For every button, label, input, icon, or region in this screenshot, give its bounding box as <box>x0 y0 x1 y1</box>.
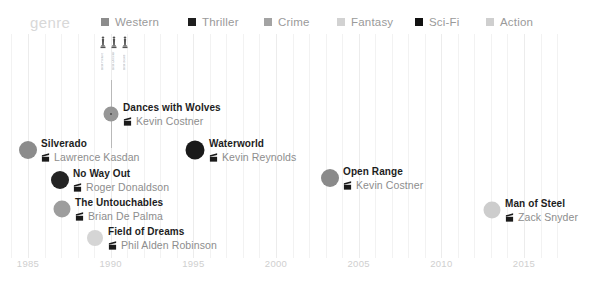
data-point-marker[interactable] <box>484 202 501 219</box>
data-point-marker[interactable] <box>321 169 339 187</box>
data-point-label: WaterworldKevin Reynolds <box>209 138 296 163</box>
data-point-label: The UntouchablesBrian De Palma <box>75 197 163 222</box>
data-point-label: Open RangeKevin Costner <box>343 166 423 191</box>
oscar-statuette-icon <box>121 36 129 49</box>
film-title: Waterworld <box>209 138 296 150</box>
award-item[interactable]: Best Director <box>109 36 118 70</box>
film-title: No Way Out <box>73 168 169 180</box>
clapperboard-icon <box>41 153 50 162</box>
data-point-marker[interactable] <box>19 141 37 159</box>
axis-tick-label: 1995 <box>182 258 204 269</box>
film-title: Man of Steel <box>505 198 578 210</box>
film-title: Field of Dreams <box>108 226 217 238</box>
director-row: Zack Snyder <box>505 211 578 223</box>
clapperboard-icon <box>209 153 218 162</box>
director-row: Kevin Costner <box>123 115 221 127</box>
film-title: Open Range <box>343 166 423 178</box>
data-point-label: Dances with WolvesKevin Costner <box>123 102 221 127</box>
data-point-label: Man of SteelZack Snyder <box>505 198 578 223</box>
clapperboard-icon <box>108 241 117 250</box>
clapperboard-icon <box>505 213 514 222</box>
data-point-marker[interactable] <box>54 201 71 218</box>
award-item[interactable]: Best Picture <box>98 36 107 70</box>
axis-tick-label: 1985 <box>17 258 39 269</box>
data-point-label: Field of DreamsPhil Alden Robinson <box>108 226 217 251</box>
director-row: Kevin Costner <box>343 179 423 191</box>
axis-tick-label: 2015 <box>513 258 535 269</box>
clapperboard-icon <box>75 212 84 221</box>
director-name: Zack Snyder <box>518 211 578 223</box>
award-label: Best Score <box>123 50 126 70</box>
director-row: Brian De Palma <box>75 210 163 222</box>
clapperboard-icon <box>73 183 82 192</box>
movie-timeline-chart: genre WesternThrillerCrimeFantasySci-FiA… <box>0 0 596 289</box>
director-name: Kevin Costner <box>356 179 423 191</box>
director-row: Phil Alden Robinson <box>108 239 217 251</box>
award-icon-group: Best PictureBest DirectorBest Score <box>97 36 130 70</box>
data-point-marker[interactable] <box>51 171 69 189</box>
director-name: Roger Donaldson <box>86 181 169 193</box>
axis-tick-label: 2005 <box>347 258 369 269</box>
axis-tick-label: 2010 <box>430 258 452 269</box>
director-name: Lawrence Kasdan <box>54 151 140 163</box>
award-item[interactable]: Best Score <box>120 36 129 70</box>
film-title: The Untouchables <box>75 197 163 209</box>
data-point-marker[interactable] <box>186 141 205 160</box>
oscar-statuette-icon <box>99 36 107 49</box>
film-title: Silverado <box>41 138 140 150</box>
award-label: Best Picture <box>101 50 104 70</box>
data-point-label: No Way OutRoger Donaldson <box>73 168 169 193</box>
director-row: Lawrence Kasdan <box>41 151 140 163</box>
director-name: Brian De Palma <box>88 210 163 222</box>
axis-tick-label: 2000 <box>265 258 287 269</box>
data-point-marker[interactable] <box>87 230 103 246</box>
director-row: Roger Donaldson <box>73 181 169 193</box>
director-row: Kevin Reynolds <box>209 151 296 163</box>
film-title: Dances with Wolves <box>123 102 221 114</box>
data-point-label: SilveradoLawrence Kasdan <box>41 138 140 163</box>
award-label: Best Director <box>112 50 115 70</box>
oscar-statuette-icon <box>110 36 118 49</box>
director-name: Phil Alden Robinson <box>121 239 217 251</box>
axis-tick-label: 1990 <box>99 258 121 269</box>
director-name: Kevin Costner <box>136 115 203 127</box>
director-name: Kevin Reynolds <box>222 151 296 163</box>
clapperboard-icon <box>343 181 352 190</box>
x-axis: 1985199019952000200520102015 <box>0 258 596 278</box>
data-point-center-dot <box>110 113 112 115</box>
clapperboard-icon <box>123 117 132 126</box>
